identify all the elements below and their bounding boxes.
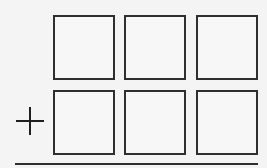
addend-2-digit-3-box[interactable] (196, 90, 258, 155)
addend-1-digit-2-box[interactable] (124, 15, 186, 80)
addend-2-digit-1-box[interactable] (53, 90, 115, 155)
plus-icon-vertical (29, 107, 31, 135)
sum-divider-line (15, 163, 258, 165)
addend-1-digit-1-box[interactable] (53, 15, 115, 80)
addend-2-digit-2-box[interactable] (124, 90, 186, 155)
addend-1-digit-3-box[interactable] (196, 15, 258, 80)
